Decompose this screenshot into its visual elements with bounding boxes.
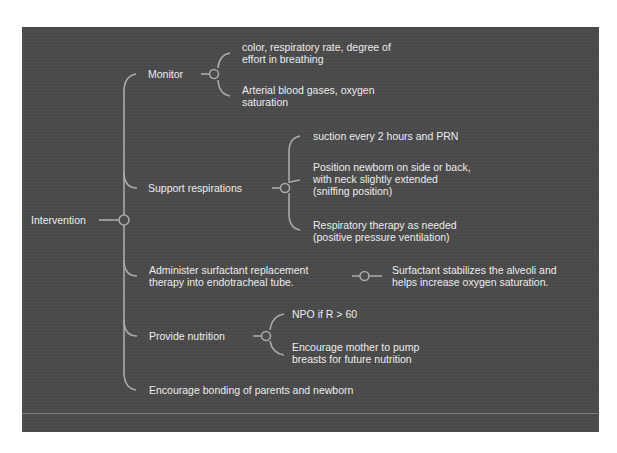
branch-node-support-respirations[interactable]: Support respirations: [148, 182, 242, 194]
leaf-node-monitor-color[interactable]: color, respiratory rate, degree of effor…: [242, 41, 391, 65]
leaf-node-respiratory-therapy[interactable]: Respiratory therapy as needed (positive …: [313, 219, 457, 243]
root-node-intervention[interactable]: Intervention: [31, 214, 86, 226]
leaf-node-surfactant-stabilizes[interactable]: Surfactant stabilizes the alveoli and he…: [392, 264, 557, 288]
surfactant-node-icon: [360, 272, 369, 281]
nutrition-node-icon: [262, 332, 271, 341]
monitor-node-icon: [210, 70, 219, 79]
branch-node-administer-surfactant[interactable]: Administer surfactant replacement therap…: [149, 264, 308, 288]
leaf-node-monitor-abg[interactable]: Arterial blood gases, oxygen saturation: [242, 84, 375, 108]
support-node-icon: [281, 184, 290, 193]
leaf-node-position-newborn[interactable]: Position newborn on side or back, with n…: [313, 161, 471, 197]
branch-node-monitor[interactable]: Monitor: [148, 68, 183, 80]
branch-node-encourage-bonding[interactable]: Encourage bonding of parents and newborn: [149, 384, 353, 396]
leaf-node-suction[interactable]: suction every 2 hours and PRN: [313, 130, 458, 142]
leaf-node-npo[interactable]: NPO if R > 60: [292, 308, 357, 320]
leaf-node-pump-breasts[interactable]: Encourage mother to pump breasts for fut…: [292, 341, 419, 365]
branch-node-provide-nutrition[interactable]: Provide nutrition: [149, 330, 225, 342]
root-node-icon: [119, 215, 129, 225]
